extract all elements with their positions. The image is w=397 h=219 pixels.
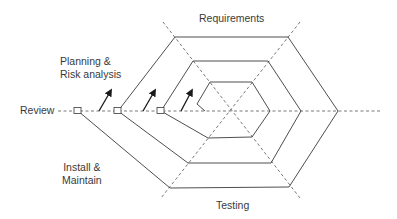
spiral-loop-inner (161, 82, 270, 138)
label-install-maintain: Install & Maintain (62, 161, 102, 187)
label-requirements: Requirements (199, 12, 264, 25)
arrow-icon (99, 92, 110, 111)
label-planning-line2: Risk analysis (60, 68, 121, 81)
progress-arrows (99, 92, 191, 111)
label-install-line1: Install & (62, 161, 102, 174)
label-planning-line1: Planning & (60, 55, 121, 68)
checkpoint-icon (157, 108, 164, 114)
review-checkpoints (74, 108, 164, 114)
label-install-line2: Maintain (62, 174, 102, 187)
arrow-icon (181, 92, 191, 111)
label-planning-risk-analysis: Planning & Risk analysis (60, 55, 121, 81)
label-review: Review (20, 104, 54, 117)
checkpoint-icon (74, 108, 81, 114)
checkpoint-icon (114, 108, 121, 114)
spiral-model-diagram (0, 0, 397, 219)
arrow-icon (143, 92, 154, 111)
spiral-loop-middle (118, 61, 301, 163)
dashed-axes (58, 22, 380, 198)
label-testing: Testing (216, 199, 249, 212)
